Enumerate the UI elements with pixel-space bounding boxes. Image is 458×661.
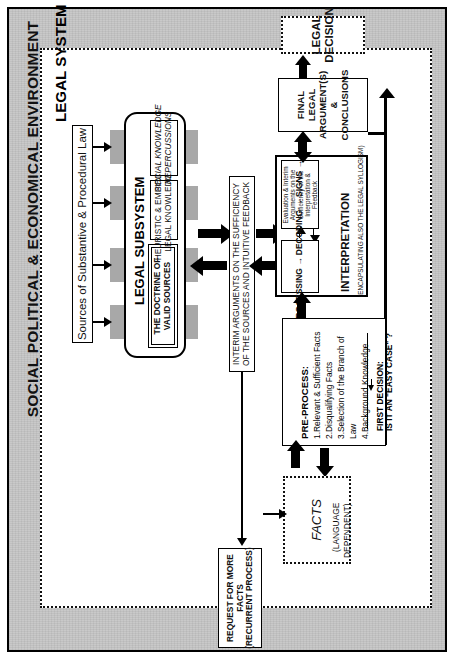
first-decision-arrow-head <box>368 385 374 391</box>
doctrine-line-2: VALID SOURCES <box>162 262 172 330</box>
decision-line-1: LEGAL <box>310 16 322 55</box>
facts-sub-line-1: (LANGUAGE <box>332 503 341 552</box>
preprocess-to-final-head <box>379 88 395 98</box>
signs-chain-item-4: SIGNS <box>294 170 304 196</box>
preprocess-to-final-elbow <box>368 132 386 135</box>
interim-line-1: INTERIM ARGUMENTS ON THE SUFFICIENCY <box>231 183 241 365</box>
request-line-1: REQUEST FOR MORE <box>225 554 235 642</box>
interim-to-request-head <box>237 538 247 546</box>
final-line-3: ARGUMENT(S) <box>317 71 328 139</box>
facts-title: FACTS <box>310 499 325 541</box>
interpretation-subtitle: (ENCAPSULATING ALSO THE LEGAL SYLLOGISM) <box>357 145 364 297</box>
final-line-5: CONCLUSIONS <box>340 70 351 141</box>
final-line-4: & <box>329 102 340 109</box>
final-line-2: LEGAL <box>306 89 317 122</box>
arrow-head-1 <box>104 142 112 152</box>
pre-process-item-4: 4.Background Knowledge <box>360 344 370 439</box>
subsystem-item-doctrine-label: THE DOCTRINE OF VALID SOURCES <box>153 258 172 335</box>
request-line-3: (RECURRENT PROCESS) <box>244 547 254 648</box>
signs-chain-arrow-3: → <box>294 257 304 265</box>
connector-tab-6 <box>184 186 198 220</box>
social-line-2: REPERCUSSIONS <box>163 112 173 185</box>
evaluation-line-5: Feedback <box>311 180 318 208</box>
diagram-page: SOCIAL POLITICAL & ECONOMICAL ENVIRONMEN… <box>0 0 458 661</box>
request-to-facts-head <box>279 509 287 519</box>
request-label: REQUEST FOR MORE FACTS (RECURRENT PROCES… <box>226 547 255 648</box>
final-line-1: FINAL <box>295 91 306 119</box>
pre-process-heading: PRE-PROCESS: <box>299 366 310 439</box>
decision-line-2: DECISION <box>323 7 335 63</box>
evaluation-line-1: Evaluation & Interim <box>282 166 289 223</box>
final-arguments-label: FINAL LEGAL ARGUMENT(S) & CONCLUSIONS <box>295 70 350 141</box>
pre-process-separator <box>367 333 368 429</box>
interpretation-title: INTERPRETATION <box>339 193 352 292</box>
subsystem-item-social-label: SOCIAL KNOWLEDGE REPERCUSSIONS <box>154 104 173 191</box>
sources-box-label: Sources of Substantive & Procedural Law <box>76 128 89 340</box>
signs-chain-subbox: → SIGNS → PROCESSING → DECODING → SIGNS … <box>281 240 319 293</box>
connector-tab-8 <box>184 305 198 339</box>
social-line-1: SOCIAL KNOWLEDGE <box>153 104 163 191</box>
legal-system-heading: LEGAL SYSTEM <box>52 4 69 122</box>
arrow-head-4 <box>104 317 112 327</box>
doctrine-line-1: THE DOCTRINE OF <box>152 258 162 335</box>
legal-decision-box: LEGAL DECISION <box>281 16 365 54</box>
pre-process-item-2: 2.Disqualifying Facts <box>324 362 334 439</box>
facts-box: FACTS (LANGUAGE DEPENDENT) <box>283 476 351 564</box>
first-decision-question: IS IT AN "EASY CASE" ? <box>384 333 394 431</box>
pre-process-box: PRE-PROCESS: 1.Relevant & Sufficient Fac… <box>282 318 386 446</box>
legal-subsystem-heading: LEGAL SUBSYSTEM <box>132 177 147 305</box>
pre-process-item-3: 3.Selection of the Branch of <box>336 336 346 439</box>
facts-sub-line-2: DEPENDENT) <box>343 504 352 558</box>
request-line-2: FACTS <box>234 584 244 611</box>
subsystem-item-social: SOCIAL KNOWLEDGE REPERCUSSIONS <box>150 120 178 176</box>
legal-decision-label: LEGAL DECISION <box>310 7 336 63</box>
arrow-head-3 <box>104 260 112 270</box>
signs-chain-item-3: DECODING <box>294 209 304 254</box>
sources-box: Sources of Substantive & Procedural Law <box>72 125 93 343</box>
connector-tab-5 <box>184 130 198 164</box>
signs-chain-arrow-4: → <box>294 199 304 207</box>
arrow-head-2 <box>104 198 112 208</box>
pre-process-item-3b: Law <box>348 424 358 439</box>
final-arguments-box: FINAL LEGAL ARGUMENT(S) & CONCLUSIONS <box>278 78 368 132</box>
pre-process-item-1: 1.Relevant & Sufficient Facts <box>312 332 322 439</box>
interim-to-request-shaft <box>241 372 243 540</box>
subsystem-item-doctrine: THE DOCTRINE OF VALID SOURCES <box>151 247 175 345</box>
request-box: REQUEST FOR MORE FACTS (RECURRENT PROCES… <box>218 548 262 648</box>
